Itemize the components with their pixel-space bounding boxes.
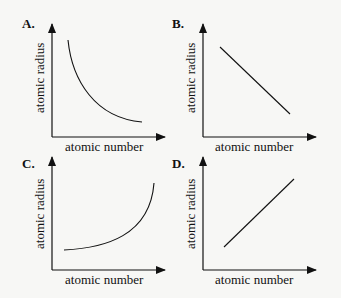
panel-d-xlabel: atomic number bbox=[215, 272, 293, 288]
panel-a-label: A. bbox=[22, 16, 35, 32]
panel-c-ylabel: atomic radius bbox=[32, 179, 48, 249]
chart-a-curve bbox=[68, 40, 142, 122]
panel-b-xlabel: atomic number bbox=[215, 139, 293, 155]
chart-c bbox=[52, 157, 165, 270]
chart-b-line bbox=[220, 47, 290, 114]
chart-d bbox=[203, 157, 316, 270]
panel-a-ylabel: atomic radius bbox=[32, 43, 48, 113]
chart-a bbox=[52, 24, 165, 137]
panel-b-label: B. bbox=[172, 16, 184, 32]
panel-c-xlabel: atomic number bbox=[65, 272, 143, 288]
panel-d-ylabel: atomic radius bbox=[183, 179, 199, 249]
chart-d-line bbox=[224, 179, 294, 247]
panel-b-ylabel: atomic radius bbox=[183, 43, 199, 113]
panel-a-xlabel: atomic number bbox=[65, 139, 143, 155]
chart-b bbox=[203, 24, 316, 137]
panel-d-label: D. bbox=[172, 156, 185, 172]
panel-c-label: C. bbox=[22, 156, 35, 172]
chart-c-curve bbox=[64, 183, 154, 250]
